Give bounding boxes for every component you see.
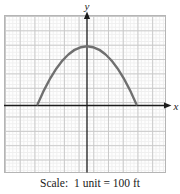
caption-value: 1 unit = 100 ft xyxy=(74,177,140,189)
y-axis-label: y xyxy=(84,0,90,12)
x-axis-arrowhead-icon xyxy=(164,102,172,108)
y-axis-arrowhead-icon xyxy=(84,12,90,20)
caption: Scale:1 unit = 100 ft xyxy=(0,177,180,189)
figure-page: y x Scale:1 unit = 100 ft xyxy=(0,0,180,194)
plot-svg: y x xyxy=(0,0,180,194)
caption-label: Scale: xyxy=(40,177,68,189)
x-axis-label: x xyxy=(173,100,179,112)
